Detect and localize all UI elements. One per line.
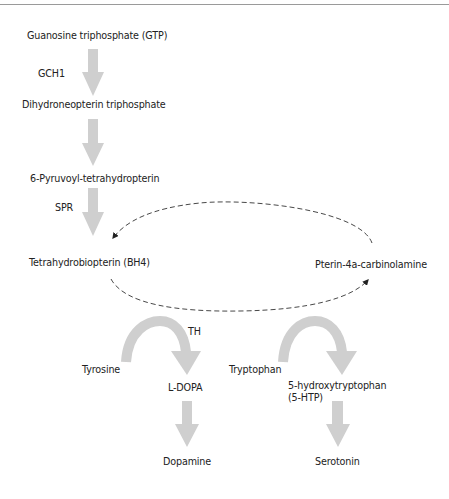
node-dopamine: Dopamine: [163, 455, 211, 468]
arrow-pyruvoyl-to-bh4: [82, 188, 104, 236]
enzyme-gch1-label: GCH1: [38, 67, 65, 80]
node-6-pyruvoyl-tetrahydropterin: 6-Pyruvoyl-tetrahydropterin: [30, 172, 160, 185]
enzyme-th-label: TH: [188, 325, 201, 338]
curved-arrow-tryptophan-to-5htp: [283, 321, 357, 375]
node-l-dopa: L-DOPA: [168, 381, 202, 394]
node-dihydroneopterin-triphosphate: Dihydroneopterin triphosphate: [22, 98, 166, 111]
arrow-ldopa-to-dopamine: [175, 401, 199, 447]
dashed-arc-bh4-to-carbinolamine: [111, 279, 368, 311]
node-tetrahydrobiopterin-bh4: Tetrahydrobiopterin (BH4): [29, 256, 150, 269]
node-gtp: Guanosine triphosphate (GTP): [27, 29, 167, 42]
arrow-gtp-to-dihydroneopterin: [82, 49, 104, 96]
node-tryptophan: Tryptophan: [229, 363, 281, 376]
node-5-htp-abbrev: (5-HTP): [288, 391, 323, 404]
node-tyrosine: Tyrosine: [82, 363, 120, 376]
pathway-diagram: Guanosine triphosphate (GTP) GCH1 Dihydr…: [0, 0, 449, 499]
node-serotonin: Serotonin: [315, 455, 360, 468]
diagram-graphics: [0, 0, 449, 499]
arrow-dihydroneopterin-to-pyruvoyl: [82, 119, 104, 166]
arrow-5htp-to-serotonin: [326, 401, 350, 447]
node-pterin-4a-carbinolamine: Pterin-4a-carbinolamine: [315, 258, 427, 271]
enzyme-spr-label: SPR: [55, 201, 73, 214]
dashed-arc-carbinolamine-to-bh4: [113, 202, 372, 243]
